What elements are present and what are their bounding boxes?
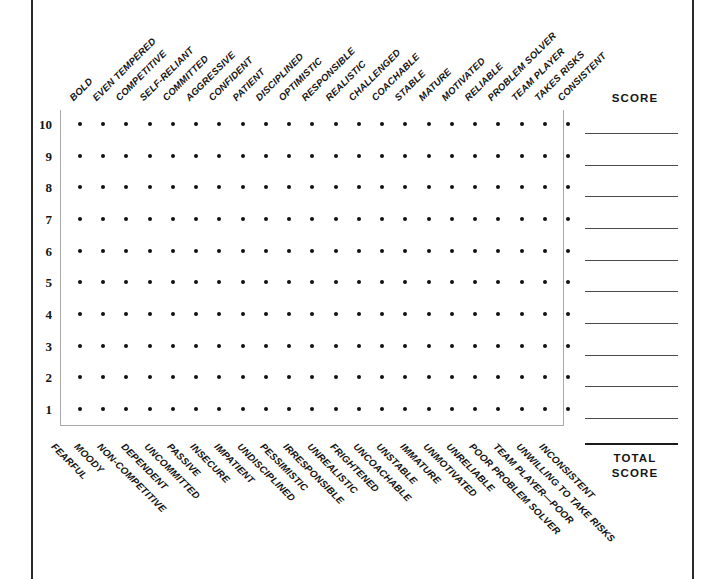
rating-dot[interactable] xyxy=(78,407,82,411)
rating-dot[interactable] xyxy=(566,122,570,126)
rating-dot[interactable] xyxy=(310,312,314,316)
score-entry-line[interactable] xyxy=(585,323,678,324)
rating-dot[interactable] xyxy=(101,185,105,189)
rating-dot[interactable] xyxy=(473,154,477,158)
rating-dot[interactable] xyxy=(380,344,384,348)
rating-dot[interactable] xyxy=(566,217,570,221)
rating-dot[interactable] xyxy=(496,185,500,189)
rating-dot[interactable] xyxy=(287,217,291,221)
rating-dot[interactable] xyxy=(380,407,384,411)
rating-dot[interactable] xyxy=(241,375,245,379)
rating-dot[interactable] xyxy=(124,122,128,126)
rating-dot[interactable] xyxy=(334,407,338,411)
rating-dot[interactable] xyxy=(241,154,245,158)
rating-dot[interactable] xyxy=(171,249,175,253)
rating-dot[interactable] xyxy=(357,280,361,284)
rating-dot[interactable] xyxy=(148,280,152,284)
rating-dot[interactable] xyxy=(101,375,105,379)
rating-dot[interactable] xyxy=(287,249,291,253)
rating-dot[interactable] xyxy=(101,249,105,253)
rating-dot[interactable] xyxy=(124,344,128,348)
rating-dot[interactable] xyxy=(171,280,175,284)
rating-dot[interactable] xyxy=(264,185,268,189)
score-entry-line[interactable] xyxy=(585,133,678,134)
rating-dot[interactable] xyxy=(334,312,338,316)
rating-dot[interactable] xyxy=(310,154,314,158)
rating-dot[interactable] xyxy=(380,185,384,189)
rating-dot[interactable] xyxy=(101,344,105,348)
rating-dot[interactable] xyxy=(566,185,570,189)
rating-dot[interactable] xyxy=(287,154,291,158)
rating-dot[interactable] xyxy=(357,249,361,253)
rating-dot[interactable] xyxy=(241,312,245,316)
rating-dot[interactable] xyxy=(78,249,82,253)
rating-dot[interactable] xyxy=(496,280,500,284)
rating-dot[interactable] xyxy=(543,249,547,253)
rating-dot[interactable] xyxy=(473,249,477,253)
rating-dot[interactable] xyxy=(403,122,407,126)
rating-dot[interactable] xyxy=(124,154,128,158)
rating-dot[interactable] xyxy=(148,185,152,189)
score-entry-line[interactable] xyxy=(585,386,678,387)
rating-dot[interactable] xyxy=(241,344,245,348)
rating-dot[interactable] xyxy=(124,280,128,284)
rating-dot[interactable] xyxy=(194,154,198,158)
rating-dot[interactable] xyxy=(450,122,454,126)
rating-dot[interactable] xyxy=(148,217,152,221)
rating-dot[interactable] xyxy=(450,375,454,379)
rating-dot[interactable] xyxy=(450,217,454,221)
rating-dot[interactable] xyxy=(287,407,291,411)
rating-dot[interactable] xyxy=(194,122,198,126)
rating-dot[interactable] xyxy=(566,312,570,316)
rating-dot[interactable] xyxy=(543,185,547,189)
rating-dot[interactable] xyxy=(380,249,384,253)
rating-dot[interactable] xyxy=(171,154,175,158)
rating-dot[interactable] xyxy=(357,344,361,348)
rating-dot[interactable] xyxy=(217,280,221,284)
rating-dot[interactable] xyxy=(427,249,431,253)
rating-dot[interactable] xyxy=(287,280,291,284)
rating-dot[interactable] xyxy=(520,280,524,284)
rating-dot[interactable] xyxy=(496,154,500,158)
rating-dot[interactable] xyxy=(78,154,82,158)
rating-dot[interactable] xyxy=(520,122,524,126)
rating-dot[interactable] xyxy=(217,375,221,379)
rating-dot[interactable] xyxy=(78,375,82,379)
rating-dot[interactable] xyxy=(357,312,361,316)
rating-dot[interactable] xyxy=(101,217,105,221)
rating-dot[interactable] xyxy=(148,122,152,126)
rating-dot[interactable] xyxy=(520,154,524,158)
rating-dot-grid[interactable] xyxy=(60,110,564,426)
rating-dot[interactable] xyxy=(543,122,547,126)
rating-dot[interactable] xyxy=(217,312,221,316)
rating-dot[interactable] xyxy=(264,280,268,284)
rating-dot[interactable] xyxy=(194,217,198,221)
rating-dot[interactable] xyxy=(334,217,338,221)
rating-dot[interactable] xyxy=(566,249,570,253)
rating-dot[interactable] xyxy=(310,375,314,379)
rating-dot[interactable] xyxy=(450,407,454,411)
rating-dot[interactable] xyxy=(357,122,361,126)
rating-dot[interactable] xyxy=(450,249,454,253)
rating-dot[interactable] xyxy=(520,249,524,253)
score-entry-line[interactable] xyxy=(585,418,678,419)
rating-dot[interactable] xyxy=(380,280,384,284)
rating-dot[interactable] xyxy=(171,217,175,221)
rating-dot[interactable] xyxy=(496,375,500,379)
rating-dot[interactable] xyxy=(148,344,152,348)
rating-dot[interactable] xyxy=(520,185,524,189)
rating-dot[interactable] xyxy=(148,312,152,316)
rating-dot[interactable] xyxy=(78,344,82,348)
rating-dot[interactable] xyxy=(357,217,361,221)
rating-dot[interactable] xyxy=(520,375,524,379)
rating-dot[interactable] xyxy=(148,249,152,253)
rating-dot[interactable] xyxy=(380,154,384,158)
rating-dot[interactable] xyxy=(496,407,500,411)
rating-dot[interactable] xyxy=(543,407,547,411)
rating-dot[interactable] xyxy=(566,154,570,158)
rating-dot[interactable] xyxy=(543,217,547,221)
rating-dot[interactable] xyxy=(334,122,338,126)
rating-dot[interactable] xyxy=(566,375,570,379)
rating-dot[interactable] xyxy=(450,312,454,316)
rating-dot[interactable] xyxy=(450,344,454,348)
